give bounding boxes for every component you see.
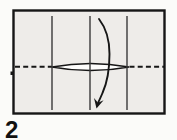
origami-step-diagram <box>0 0 177 140</box>
step-number: 2 <box>5 117 18 140</box>
paper-outline <box>14 11 165 114</box>
origami-diagram-canvas: 2 <box>0 0 177 140</box>
print-speck <box>11 72 14 76</box>
